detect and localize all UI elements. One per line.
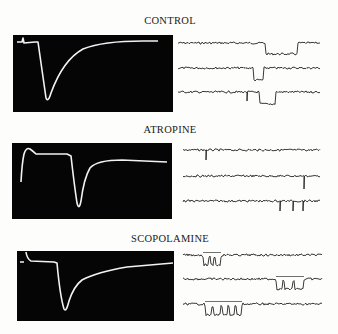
channel-trace-row	[183, 175, 320, 189]
channel-trace-row	[183, 254, 322, 266]
single-channel-traces	[0, 0, 338, 334]
channel-trace-row	[183, 200, 320, 211]
channel-trace-row	[178, 91, 320, 105]
channel-trace-row	[183, 303, 322, 316]
channel-trace-row	[178, 67, 320, 81]
channel-trace-row	[178, 42, 320, 55]
channel-trace-row	[183, 149, 320, 160]
channel-trace-row	[183, 278, 322, 290]
